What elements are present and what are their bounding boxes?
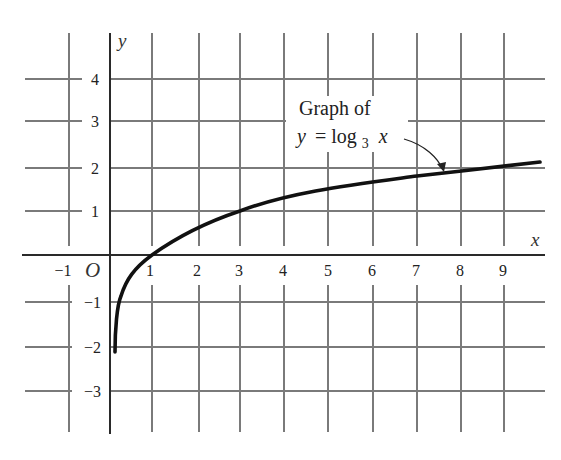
log-graph-chart: y x O −1 1 2 3 4 5 6 7 8 9 4 3 2 1 −1 −2… [0, 0, 561, 460]
x-tick-label: 6 [368, 262, 376, 279]
x-tick-label: −1 [54, 262, 71, 279]
x-tick-labels: −1 1 2 3 4 5 6 7 8 9 [54, 262, 507, 279]
x-tick-label: 7 [412, 262, 420, 279]
y-tick-labels: 4 3 2 1 −1 −2 −3 [84, 71, 101, 400]
annotation-line1: Graph of [299, 97, 371, 120]
origin-label: O [85, 258, 100, 282]
y-tick-label: −2 [84, 339, 101, 356]
y-tick-label: −1 [84, 294, 101, 311]
y-tick-label: 1 [91, 203, 99, 220]
vertical-gridlines [69, 33, 504, 432]
x-tick-label: 2 [193, 262, 201, 279]
x-tick-label: 4 [279, 262, 287, 279]
y-tick-label: 2 [91, 160, 99, 177]
y-axis-label: y [116, 30, 127, 51]
x-tick-label: 8 [456, 262, 464, 279]
x-axis-label: x [530, 229, 540, 250]
annotation-arrow [404, 139, 443, 170]
x-tick-label: 3 [235, 262, 243, 279]
x-tick-label: 9 [499, 262, 507, 279]
y-tick-label: 4 [91, 71, 99, 88]
annotation-line2: y = log 3 x [295, 125, 388, 152]
y-tick-label: 3 [91, 113, 99, 130]
x-tick-label: 5 [324, 262, 332, 279]
x-tick-label: 1 [146, 262, 154, 279]
y-tick-label: −3 [84, 383, 101, 400]
